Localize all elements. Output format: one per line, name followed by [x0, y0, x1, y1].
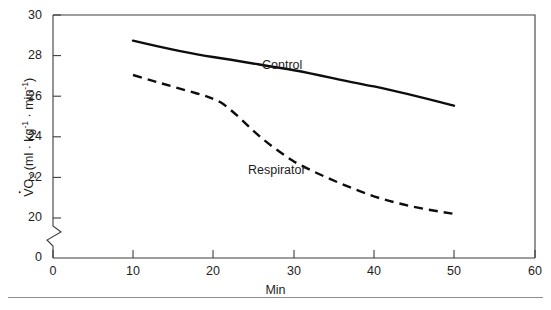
- x-tick-marks: [53, 250, 535, 258]
- y-axis-break-icon: [47, 218, 61, 258]
- y-axis-title-mid: · min: [22, 90, 36, 121]
- x-tick-label-10: 10: [113, 265, 153, 278]
- y-tick-marks: [53, 15, 61, 218]
- figure-bottom-rule: [8, 297, 543, 298]
- series-label-respirator: Respirator: [248, 163, 306, 177]
- x-tick-label-60: 60: [515, 265, 551, 278]
- y-axis-title-close: ): [22, 78, 36, 82]
- x-tick-label-40: 40: [354, 265, 394, 278]
- y-axis-title-sub2: 2: [28, 174, 38, 179]
- y-tick-label-30: 30: [14, 9, 42, 22]
- series-line-control: [133, 41, 454, 106]
- series-label-control: Control: [262, 58, 302, 72]
- y-tick-label-0: 0: [14, 251, 42, 264]
- y-axis-title-text: (ml · kg: [22, 128, 36, 170]
- y-axis-title-o: O: [22, 179, 36, 189]
- x-axis-title: Min: [0, 283, 551, 297]
- x-tick-label-0: 0: [33, 265, 73, 278]
- y-axis-title-units-open: [22, 170, 36, 173]
- figure-vo2-over-time: 0 20 22 24 26 28 30 0 10 20 30 40 50 60 …: [0, 0, 551, 310]
- chart-canvas: [0, 0, 551, 310]
- y-axis-title: VO2 (ml · kg-1 · min-1): [20, 32, 39, 242]
- x-tick-label-50: 50: [434, 265, 474, 278]
- y-axis-title-exp1: -1: [20, 121, 30, 129]
- plot-frame-top-right: [53, 15, 535, 258]
- x-tick-label-20: 20: [193, 265, 233, 278]
- v-dot-symbol: V: [22, 188, 36, 196]
- series-line-respirator: [133, 75, 454, 214]
- x-tick-label-30: 30: [274, 265, 314, 278]
- y-axis-title-exp2: -1: [20, 82, 30, 90]
